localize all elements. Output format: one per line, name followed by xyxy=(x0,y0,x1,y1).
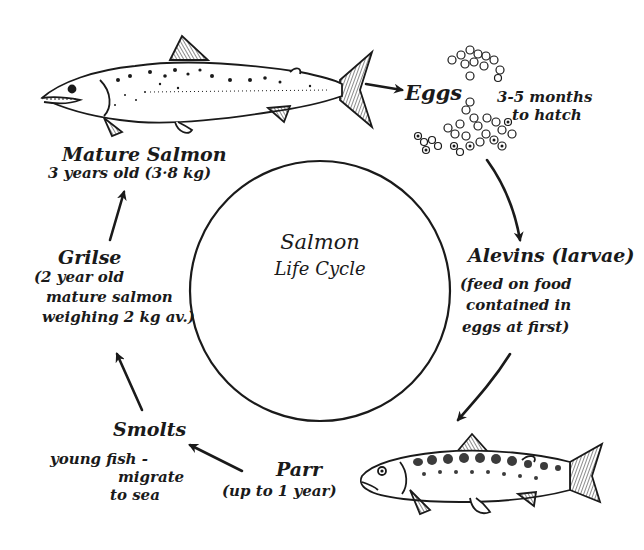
arrow-grilse-to-mature xyxy=(110,192,124,240)
parr-fish-icon xyxy=(361,434,602,514)
stage-detail: (feed on food xyxy=(460,277,571,292)
stage-detail: to sea xyxy=(110,488,160,503)
arrow-alevins-to-parr xyxy=(458,354,510,420)
arrow-mature-to-eggs xyxy=(366,84,402,90)
arrow-smolts-to-grilse xyxy=(117,354,142,410)
stage-detail: 3-5 months xyxy=(497,90,592,105)
stage-title: Eggs xyxy=(405,82,462,103)
stage-detail: 3 years old (3·8 kg) xyxy=(48,166,211,181)
stage-detail: weighing 2 kg av.) xyxy=(42,310,195,325)
stage-title: Parr xyxy=(276,460,322,479)
stage-detail: migrate xyxy=(118,470,184,485)
stage-detail: mature salmon xyxy=(46,290,173,305)
arrow-eggs-to-alevins xyxy=(487,160,520,240)
diagram-title: Salmon xyxy=(270,232,370,253)
arrow-parr-to-smolts xyxy=(190,445,242,471)
stage-detail: contained in xyxy=(466,298,571,313)
stage-detail: to hatch xyxy=(512,108,582,123)
stage-title: Grilse xyxy=(58,248,121,267)
adult-salmon-icon xyxy=(42,36,372,136)
salmon-life-cycle-diagram: Salmon Life Cycle Mature Salmon 3 years … xyxy=(0,0,644,550)
stage-title: Alevins (larvae) xyxy=(468,246,634,265)
stage-title: Smolts xyxy=(113,420,186,439)
stage-detail: (2 year old xyxy=(34,270,124,285)
stage-detail: (up to 1 year) xyxy=(222,484,337,499)
stage-detail: eggs at first) xyxy=(462,320,569,335)
diagram-subtitle: Life Cycle xyxy=(250,260,390,278)
stage-detail: young fish - xyxy=(50,452,148,467)
stage-title: Mature Salmon xyxy=(62,145,227,164)
center-circle xyxy=(190,161,450,421)
